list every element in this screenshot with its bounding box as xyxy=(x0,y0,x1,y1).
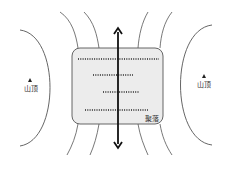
contour-line xyxy=(67,124,78,155)
contour-line xyxy=(60,12,78,48)
contour-line xyxy=(90,124,99,155)
left-peak-marker-icon xyxy=(28,78,32,82)
contour-line xyxy=(160,12,172,48)
contour-line xyxy=(84,12,99,48)
right-peak-marker-icon xyxy=(202,74,206,78)
left-peak-label: 山顶 xyxy=(24,83,38,93)
right-peak-label: 山顶 xyxy=(197,79,211,89)
settlement-label: 聚落 xyxy=(145,113,159,123)
contour-line xyxy=(138,12,148,48)
contour-line xyxy=(160,124,172,155)
contour-line xyxy=(138,124,148,155)
